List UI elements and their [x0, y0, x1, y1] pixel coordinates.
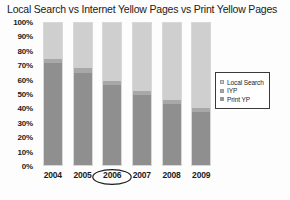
x-axis-tick-label: 2006	[103, 170, 121, 180]
stacked-bar[interactable]	[102, 22, 122, 166]
x-axis: 200420052006200720082009	[38, 170, 216, 186]
y-axis-tick-label: 100%	[13, 18, 33, 27]
stacked-bar[interactable]	[162, 22, 182, 166]
y-axis-tick-label: 60%	[18, 75, 33, 84]
legend-item-label: IYP	[227, 87, 237, 94]
bar-group[interactable]	[162, 22, 182, 166]
bar-segment-local-search	[163, 23, 181, 100]
x-axis-tick-label: 2005	[73, 170, 91, 180]
bar-segment-local-search	[44, 23, 62, 59]
legend-item-label: Print YP	[227, 96, 250, 103]
bar-segment-print-yp	[74, 73, 92, 165]
legend-item[interactable]: Print YP	[220, 96, 264, 103]
legend-swatch-icon	[220, 80, 224, 84]
y-axis: 100%90%80%70%60%50%40%30%20%10%0%	[0, 22, 36, 166]
bar-segment-local-search	[103, 23, 121, 81]
bar-group[interactable]	[132, 22, 152, 166]
y-axis-tick-label: 40%	[18, 104, 33, 113]
bar-segment-print-yp	[133, 95, 151, 165]
legend-swatch-icon	[220, 89, 224, 93]
y-axis-tick-label: 20%	[18, 133, 33, 142]
bar-segment-print-yp	[163, 104, 181, 165]
bar-segment-print-yp	[192, 112, 210, 165]
bar-segment-print-yp	[103, 85, 121, 165]
legend-item[interactable]: IYP	[220, 87, 264, 94]
x-axis-tick-label: 2009	[192, 170, 210, 180]
y-axis-tick-label: 0%	[22, 162, 33, 171]
legend-item[interactable]: Local Search	[220, 79, 264, 86]
stacked-bar[interactable]	[191, 22, 211, 166]
plot-area	[38, 22, 216, 166]
bar-group[interactable]	[43, 22, 63, 166]
y-axis-tick-label: 70%	[18, 61, 33, 70]
bar-segment-local-search	[192, 23, 210, 108]
bar-group[interactable]	[191, 22, 211, 166]
x-axis-tick-label: 2008	[162, 170, 180, 180]
chart-title: Local Search vs Internet Yellow Pages vs…	[7, 3, 277, 15]
bar-segment-local-search	[74, 23, 92, 68]
bar-group[interactable]	[73, 22, 93, 166]
stacked-bar[interactable]	[43, 22, 63, 166]
y-axis-tick-label: 10%	[18, 147, 33, 156]
legend-swatch-icon	[220, 97, 224, 101]
stacked-bar[interactable]	[73, 22, 93, 166]
chart-container: Local Search vs Internet Yellow Pages vs…	[0, 0, 290, 200]
bar-segment-local-search	[133, 23, 151, 91]
chart-legend: Local SearchIYPPrint YP	[215, 72, 270, 109]
bar-group[interactable]	[102, 22, 122, 166]
y-axis-tick-label: 50%	[18, 90, 33, 99]
y-axis-tick-label: 90%	[18, 32, 33, 41]
legend-item-label: Local Search	[227, 79, 264, 86]
y-axis-tick-label: 80%	[18, 46, 33, 55]
bar-segment-print-yp	[44, 63, 62, 165]
x-axis-tick-label: 2004	[44, 170, 62, 180]
x-axis-tick-label: 2007	[133, 170, 151, 180]
stacked-bar[interactable]	[132, 22, 152, 166]
y-axis-tick-label: 30%	[18, 118, 33, 127]
